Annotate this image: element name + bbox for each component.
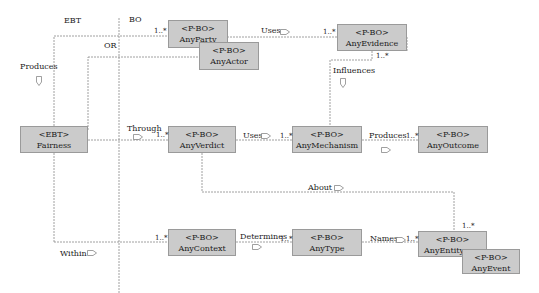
region-label-ebt: EBT xyxy=(64,16,81,25)
stereotype-label: <P-BO> xyxy=(338,27,406,38)
class-name: AnyType xyxy=(293,243,361,254)
assoc-label-produces: Produces xyxy=(369,131,407,140)
stereotype-label: <P-BO> xyxy=(200,45,258,56)
direction-arrow-right-icon xyxy=(334,185,344,191)
stereotype-label: <P-BO> xyxy=(293,129,361,140)
class-box-anytype[interactable]: <P-BO> AnyType xyxy=(292,229,362,256)
direction-arrow-right-icon xyxy=(381,147,391,153)
class-name: AnyContext xyxy=(169,243,235,254)
multiplicity-label: 1..* xyxy=(280,235,292,243)
class-box-fairness[interactable]: <EBT> Fairness xyxy=(20,126,88,153)
class-name: Fairness xyxy=(21,140,87,151)
assoc-label-uses: Uses xyxy=(261,26,281,35)
direction-arrow-right-icon xyxy=(133,134,143,140)
direction-arrow-right-icon xyxy=(280,29,290,35)
class-box-anymechanism[interactable]: <P-BO> AnyMechanism xyxy=(292,126,362,153)
assoc-label-uses: Uses xyxy=(243,131,263,140)
class-name: AnyVerdict xyxy=(169,140,235,151)
direction-arrow-down-icon xyxy=(340,78,346,88)
class-box-anyoutcome[interactable]: <P-BO> AnyOutcome xyxy=(418,126,488,153)
multiplicity-label: 1..* xyxy=(155,234,167,242)
stereotype-label: <P-BO> xyxy=(169,232,235,243)
assoc-label-names: Names xyxy=(370,234,398,243)
class-name: AnyActor xyxy=(200,56,258,67)
stereotype-label: <P-BO> xyxy=(419,129,487,140)
direction-arrow-down-icon xyxy=(36,76,42,86)
stereotype-label: <P-BO> xyxy=(293,232,361,243)
assoc-label-within: Within xyxy=(60,249,87,258)
direction-arrow-right-icon xyxy=(261,133,271,139)
class-box-anyevidence[interactable]: <P-BO> AnyEvidence xyxy=(337,24,407,51)
class-box-anyactor[interactable]: <P-BO> AnyActor xyxy=(199,42,259,70)
class-box-anyverdict[interactable]: <P-BO> AnyVerdict xyxy=(168,126,236,153)
stereotype-label: <P-BO> xyxy=(419,234,486,245)
class-name: AnyEvent xyxy=(463,263,519,274)
direction-arrow-right-icon xyxy=(396,237,406,243)
stereotype-label: <P-BO> xyxy=(169,129,235,140)
multiplicity-label: 1..* xyxy=(280,132,292,140)
assoc-label-produces: Produces xyxy=(20,62,58,71)
stereotype-label: <EBT> xyxy=(21,129,87,140)
assoc-label-influences: Influences xyxy=(333,66,375,75)
class-box-anycontext[interactable]: <P-BO> AnyContext xyxy=(168,229,236,256)
stereotype-label: <P-BO> xyxy=(169,23,227,34)
assoc-label-or: OR xyxy=(104,41,117,50)
class-name: AnyMechanism xyxy=(293,140,361,151)
multiplicity-label: 1..* xyxy=(406,132,418,140)
class-box-anyevent[interactable]: <P-BO> AnyEvent xyxy=(462,249,520,274)
direction-arrow-right-icon xyxy=(87,250,97,256)
multiplicity-label: 1..* xyxy=(406,235,418,243)
class-name: AnyEvidence xyxy=(338,38,406,49)
multiplicity-label: 1..* xyxy=(462,222,474,230)
multiplicity-label: 1..* xyxy=(156,131,168,139)
direction-arrow-right-icon xyxy=(252,244,262,250)
multiplicity-label: 1..* xyxy=(376,52,388,60)
region-label-bo: BO xyxy=(129,15,142,24)
class-name: AnyOutcome xyxy=(419,140,487,151)
assoc-label-about: About xyxy=(308,183,332,192)
multiplicity-label: 1..* xyxy=(323,28,335,36)
stereotype-label: <P-BO> xyxy=(463,252,519,263)
multiplicity-label: 1..* xyxy=(154,27,166,35)
